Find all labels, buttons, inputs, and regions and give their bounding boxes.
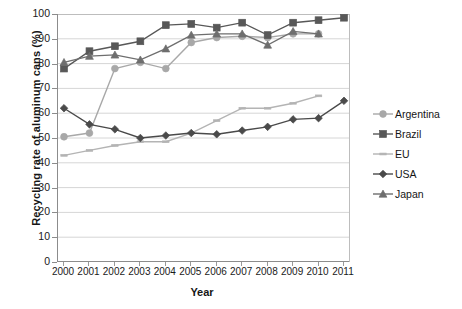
- data-point-diamond: [213, 130, 221, 138]
- data-point-square: [380, 131, 387, 138]
- y-tick-label: 20: [20, 205, 50, 217]
- data-point-diamond: [379, 170, 387, 178]
- data-point-line: [380, 153, 386, 155]
- data-point-line: [61, 154, 67, 156]
- legend-marker-circle-icon: [372, 107, 394, 121]
- chart-container: Recycling rate of aluminum cans (%) Year…: [0, 0, 462, 309]
- legend-item-brazil[interactable]: Brazil: [372, 124, 458, 144]
- legend-label: Brazil: [394, 128, 421, 140]
- data-point-line: [239, 107, 245, 109]
- data-point-line: [112, 145, 118, 147]
- legend-item-eu[interactable]: EU: [372, 144, 458, 164]
- legend-label: EU: [394, 148, 410, 160]
- x-tick-mark: [114, 262, 115, 266]
- data-point-line: [315, 95, 321, 97]
- data-point-triangle: [162, 45, 170, 52]
- data-point-square: [112, 43, 119, 50]
- y-tick-label: 10: [20, 230, 50, 242]
- data-point-square: [264, 32, 271, 39]
- data-point-square: [137, 38, 144, 45]
- data-point-diamond: [187, 129, 195, 137]
- data-point-square: [162, 22, 169, 29]
- data-point-circle: [112, 65, 119, 72]
- legend-marker-square-icon: [372, 127, 394, 141]
- series-line-brazil: [64, 18, 344, 69]
- series-line-usa: [64, 101, 344, 138]
- legend-label: USA: [394, 168, 417, 180]
- x-tick-label: 2011: [326, 266, 360, 277]
- legend-item-usa[interactable]: USA: [372, 164, 458, 184]
- x-axis-title: Year: [56, 286, 348, 298]
- x-tick-mark: [216, 262, 217, 266]
- data-point-circle: [86, 130, 93, 137]
- y-tick-label: 100: [20, 7, 50, 19]
- plot-area: [57, 14, 349, 262]
- x-tick-mark: [267, 262, 268, 266]
- data-point-square: [290, 19, 297, 26]
- data-point-line: [163, 141, 169, 143]
- data-point-diamond: [289, 116, 297, 124]
- x-tick-mark: [190, 262, 191, 266]
- series-line-eu: [64, 96, 319, 156]
- y-tick-mark: [52, 262, 57, 263]
- x-tick-mark: [63, 262, 64, 266]
- legend-item-argentina[interactable]: Argentina: [372, 104, 458, 124]
- data-point-line: [86, 150, 92, 152]
- data-point-diamond: [264, 123, 272, 131]
- data-point-diamond: [60, 104, 68, 112]
- legend-marker-triangle-icon: [372, 187, 394, 201]
- y-tick-label: 80: [20, 57, 50, 69]
- y-tick-label: 40: [20, 156, 50, 168]
- y-tick-label: 90: [20, 32, 50, 44]
- x-tick-mark: [139, 262, 140, 266]
- data-point-diamond: [238, 127, 246, 135]
- data-point-square: [239, 19, 246, 26]
- data-point-square: [61, 65, 68, 72]
- y-tick-label: 60: [20, 106, 50, 118]
- data-point-line: [264, 107, 270, 109]
- data-point-circle: [61, 133, 68, 140]
- y-tick-label: 50: [20, 131, 50, 143]
- y-tick-label: 70: [20, 81, 50, 93]
- legend-marker-line-icon: [372, 147, 394, 161]
- data-point-triangle: [264, 41, 272, 48]
- data-point-circle: [380, 111, 387, 118]
- legend-marker-diamond-icon: [372, 167, 394, 181]
- legend-item-japan[interactable]: Japan: [372, 184, 458, 204]
- legend-label: Argentina: [394, 108, 440, 120]
- x-tick-mark: [88, 262, 89, 266]
- x-tick-mark: [343, 262, 344, 266]
- data-point-line: [214, 120, 220, 122]
- x-tick-mark: [318, 262, 319, 266]
- data-point-circle: [188, 39, 195, 46]
- data-point-circle: [162, 65, 169, 72]
- data-point-line: [290, 102, 296, 104]
- data-point-diamond: [111, 126, 119, 134]
- x-tick-mark: [292, 262, 293, 266]
- data-point-square: [188, 21, 195, 28]
- legend: ArgentinaBrazilEUUSAJapan: [372, 104, 458, 204]
- legend-label: Japan: [394, 188, 424, 200]
- data-point-square: [315, 17, 322, 24]
- y-tick-label: 30: [20, 181, 50, 193]
- data-point-square: [341, 14, 348, 21]
- x-tick-mark: [241, 262, 242, 266]
- x-tick-mark: [165, 262, 166, 266]
